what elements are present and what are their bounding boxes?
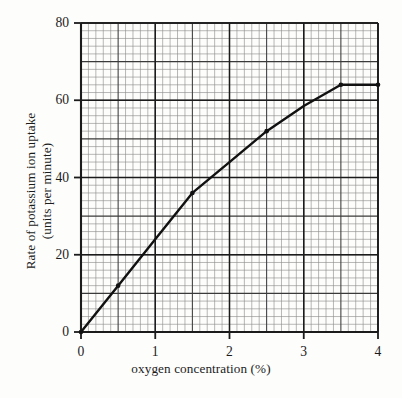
chart-figure: Rate of potassium ion uptake (units per … xyxy=(0,0,402,398)
plot-area xyxy=(0,0,402,398)
axis-ticks xyxy=(74,23,378,339)
